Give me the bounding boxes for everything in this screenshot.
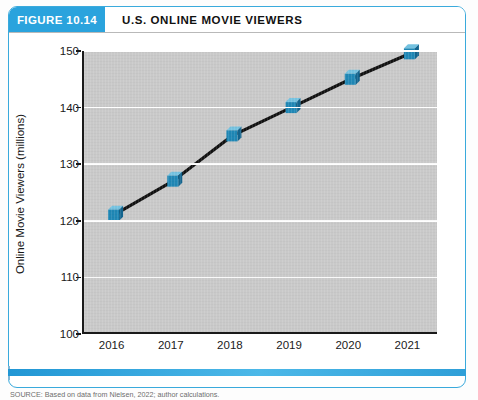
y-axis-tick-mark [76, 333, 81, 335]
source-note: SOURCE: Based on data from Nielsen, 2022… [10, 390, 470, 399]
x-axis-tick: 2021 [395, 339, 421, 351]
data-point-marker [167, 172, 182, 187]
y-axis-label: Online Movie Viewers (millions) [11, 69, 29, 319]
y-axis-tick: 140 [45, 102, 79, 114]
y-axis-tick: 150 [45, 45, 79, 57]
plot-area [82, 51, 437, 334]
y-axis-label-text: Online Movie Viewers (millions) [14, 114, 26, 274]
y-axis-tick: 100 [45, 328, 79, 340]
data-point-marker [108, 206, 123, 221]
data-point-marker [345, 70, 360, 85]
y-axis-tick-mark [76, 163, 81, 165]
bottom-accent-bar [8, 369, 466, 376]
gridline [84, 107, 437, 109]
x-axis-tick: 2019 [276, 339, 302, 351]
chart-area: Online Movie Viewers (millions) 10011012… [9, 33, 465, 363]
data-point-marker [226, 126, 241, 141]
figure-title: U.S. ONLINE MOVIE VIEWERS [105, 7, 465, 32]
data-point-marker [404, 44, 419, 59]
figure-header: FIGURE 10.14 U.S. ONLINE MOVIE VIEWERS [9, 7, 465, 33]
y-axis-tick-mark [76, 107, 81, 109]
x-axis-tick: 2017 [158, 339, 184, 351]
figure-card: FIGURE 10.14 U.S. ONLINE MOVIE VIEWERS O… [8, 6, 466, 388]
gridline [84, 163, 437, 165]
data-series-line [84, 51, 439, 334]
y-axis-tick-mark [76, 220, 81, 222]
y-axis-tick-mark [76, 277, 81, 279]
gridline [84, 277, 437, 279]
x-axis-tick: 2016 [99, 339, 125, 351]
data-point-marker [286, 98, 301, 113]
gridline [84, 220, 437, 222]
y-axis-tick: 120 [45, 215, 79, 227]
y-axis-tick: 130 [45, 158, 79, 170]
x-axis-tick: 2020 [335, 339, 361, 351]
y-axis-tick-mark [76, 50, 81, 52]
y-axis-tick-labels: 100110120130140150 [39, 51, 79, 334]
figure-number-badge: FIGURE 10.14 [9, 7, 105, 32]
series-line [114, 54, 410, 215]
figure-page: FIGURE 10.14 U.S. ONLINE MOVIE VIEWERS O… [0, 0, 478, 400]
y-axis-tick: 110 [45, 271, 79, 283]
x-axis-tick: 2018 [217, 339, 243, 351]
gridline [84, 50, 437, 52]
